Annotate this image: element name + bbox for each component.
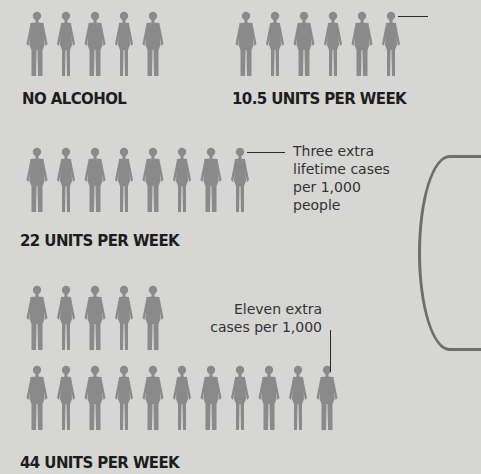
figures-no-alcohol xyxy=(22,10,167,78)
figures-44-units-row2 xyxy=(22,364,341,432)
person-icon xyxy=(138,364,168,432)
person-icon xyxy=(22,284,52,352)
label-10-5-units: 10.5 UNITS PER WEEK xyxy=(232,90,406,108)
annotation-line: cases per 1,000 xyxy=(200,318,322,336)
person-icon xyxy=(225,364,255,432)
person-icon xyxy=(138,10,168,78)
leader-line-10-5 xyxy=(398,16,428,17)
label-22-units: 22 UNITS PER WEEK xyxy=(20,232,179,250)
person-icon xyxy=(51,146,81,214)
person-icon xyxy=(109,10,139,78)
person-icon xyxy=(80,10,110,78)
person-icon xyxy=(22,146,52,214)
person-icon xyxy=(283,364,313,432)
label-44-units: 44 UNITS PER WEEK xyxy=(20,454,179,472)
person-icon xyxy=(347,10,377,78)
annotation-line: per 1,000 xyxy=(293,178,390,196)
annotation-22-units: Three extra lifetime cases per 1,000 peo… xyxy=(293,142,390,214)
figures-44-units-row1 xyxy=(22,284,167,352)
person-icon xyxy=(80,284,110,352)
person-icon xyxy=(22,364,52,432)
person-icon xyxy=(196,364,226,432)
person-icon xyxy=(109,284,139,352)
person-icon xyxy=(80,364,110,432)
annotation-44-units: Eleven extra cases per 1,000 xyxy=(200,300,322,336)
person-icon xyxy=(312,364,342,432)
person-icon xyxy=(22,10,52,78)
decorative-arc xyxy=(418,155,481,351)
person-icon xyxy=(51,284,81,352)
person-icon xyxy=(318,10,348,78)
annotation-line: Three extra xyxy=(293,142,390,160)
person-icon xyxy=(260,10,290,78)
annotation-line: lifetime cases xyxy=(293,160,390,178)
person-icon xyxy=(138,284,168,352)
person-icon xyxy=(254,364,284,432)
figures-10-5-units xyxy=(231,10,405,78)
figures-22-units xyxy=(22,146,254,214)
person-icon xyxy=(376,10,406,78)
person-icon xyxy=(289,10,319,78)
label-no-alcohol: NO ALCOHOL xyxy=(22,90,126,108)
person-icon xyxy=(80,146,110,214)
person-icon xyxy=(138,146,168,214)
person-icon xyxy=(109,146,139,214)
person-icon xyxy=(51,364,81,432)
leader-line-44 xyxy=(330,330,331,372)
person-icon xyxy=(225,146,255,214)
annotation-line: Eleven extra xyxy=(200,300,322,318)
annotation-line: people xyxy=(293,196,390,214)
person-icon xyxy=(231,10,261,78)
person-icon xyxy=(167,364,197,432)
person-icon xyxy=(167,146,197,214)
person-icon xyxy=(51,10,81,78)
person-icon xyxy=(196,146,226,214)
person-icon xyxy=(109,364,139,432)
leader-line-22 xyxy=(247,152,285,153)
